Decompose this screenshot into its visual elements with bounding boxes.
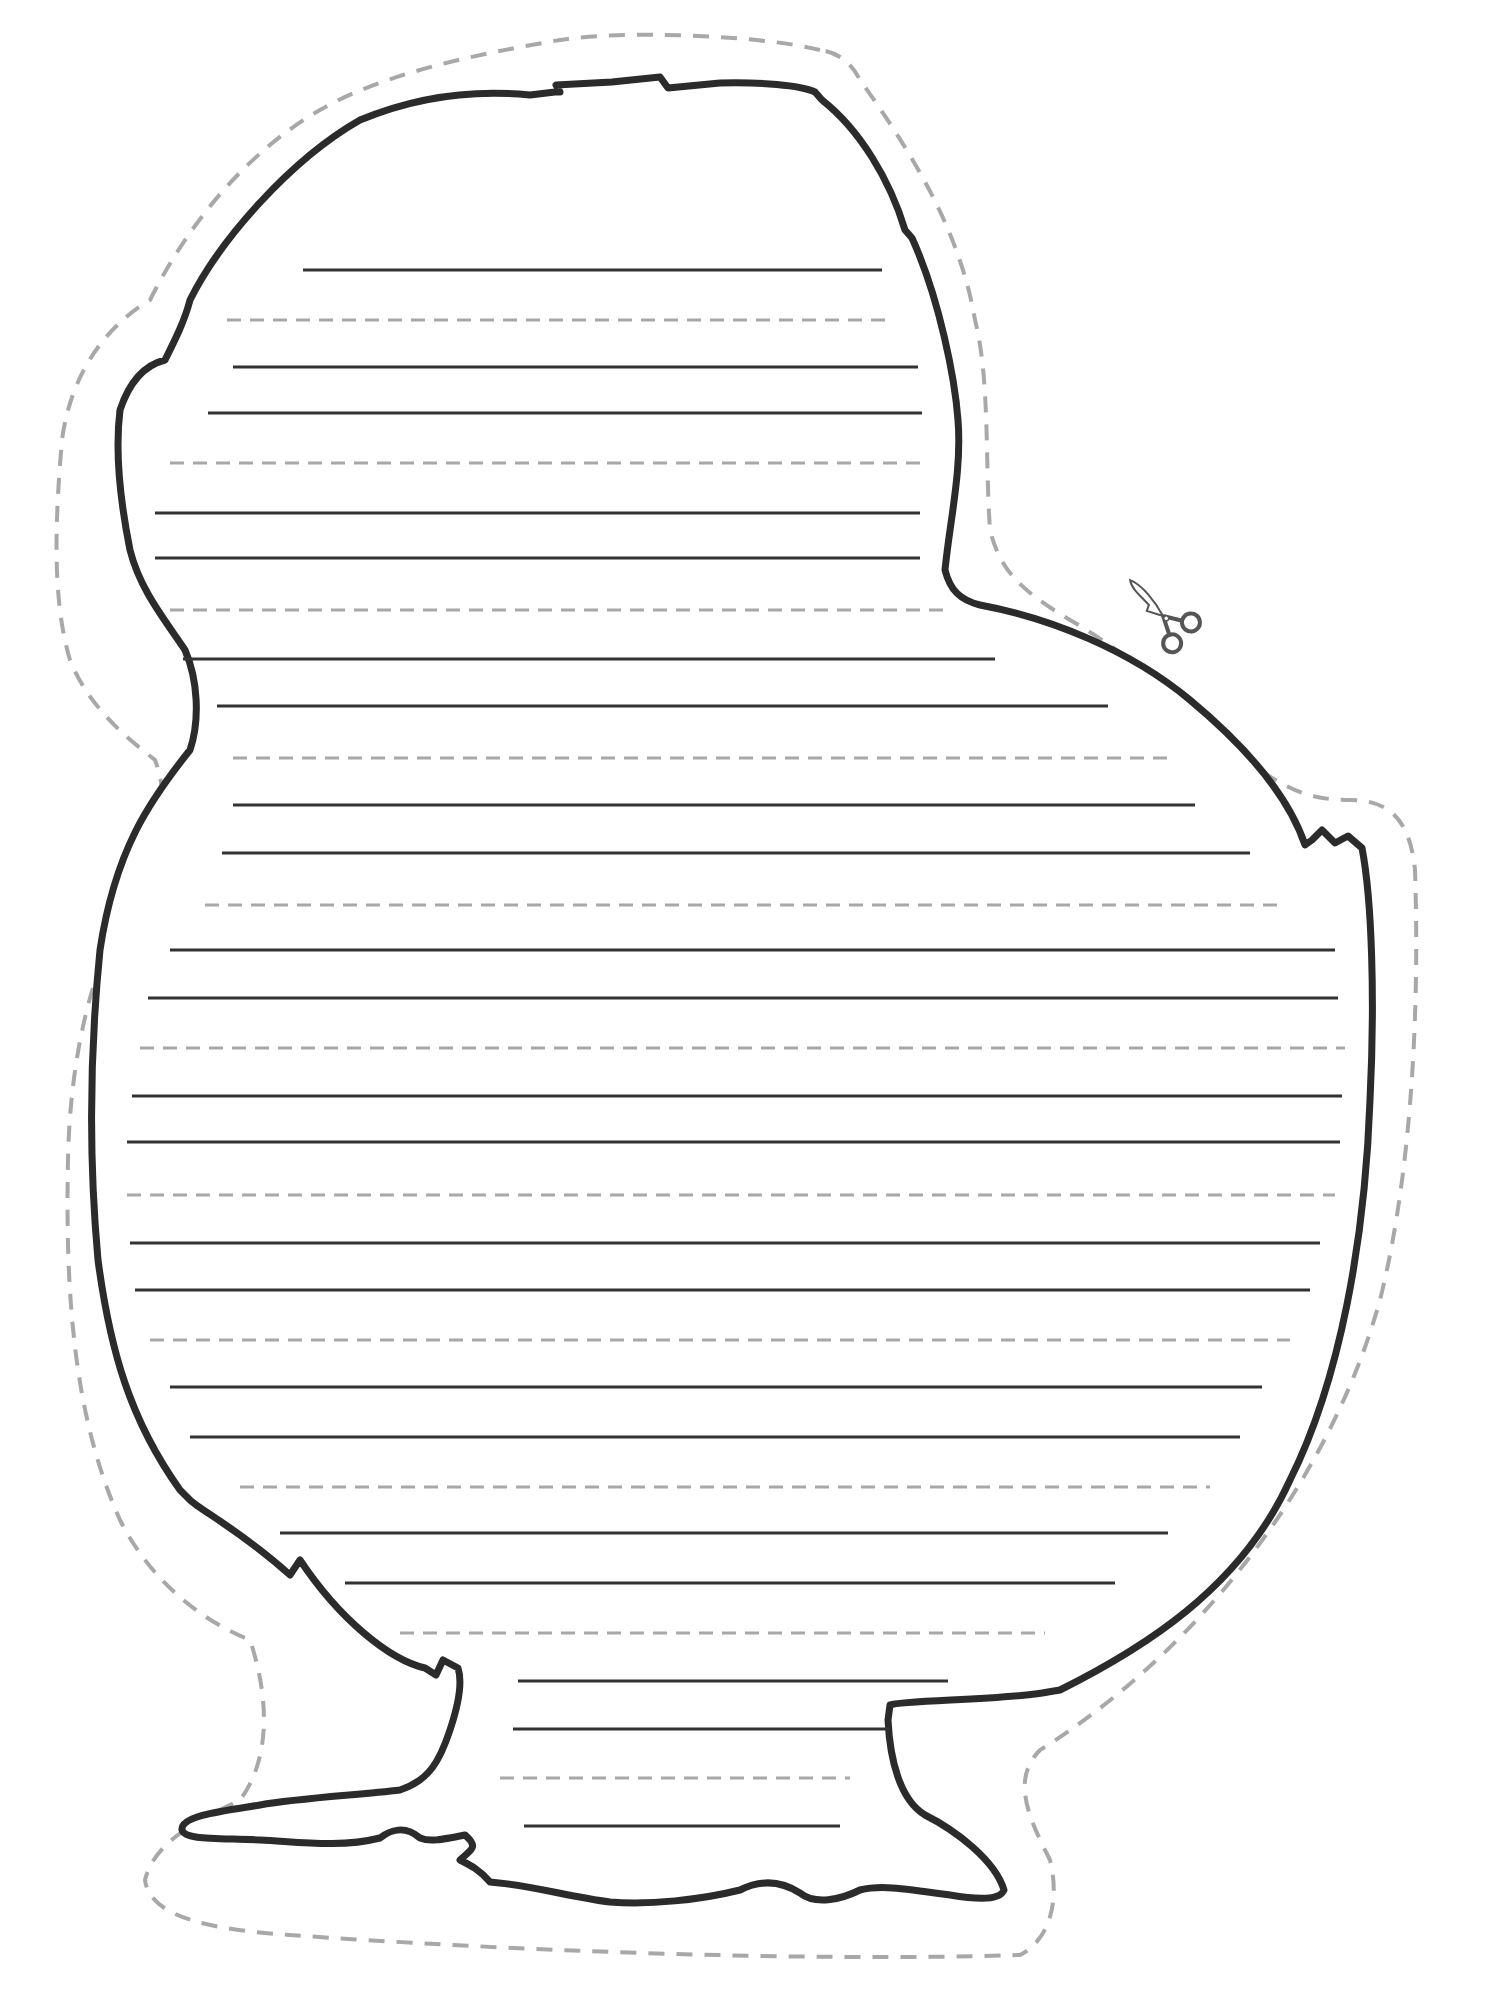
worksheet-canvas	[0, 0, 1489, 1990]
